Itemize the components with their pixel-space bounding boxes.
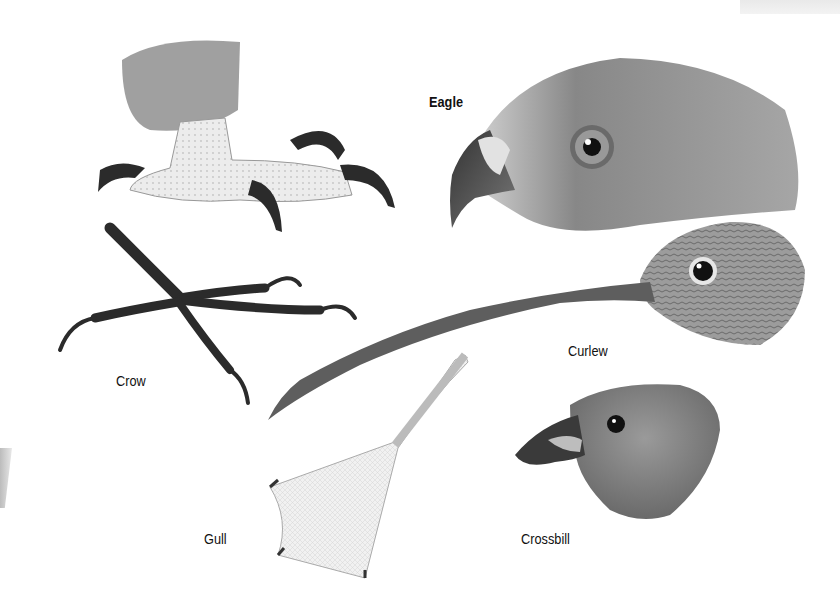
label-gull: Gull [204,530,227,547]
label-curlew: Curlew [568,342,608,359]
label-crow: Crow [116,372,146,389]
label-eagle: Eagle [429,93,463,110]
curlew-head-illustration [268,222,805,420]
crossbill-head-illustration [515,384,720,519]
illustration-plate: Eagle Crow Curlew Gull Crossbill [0,0,840,615]
label-crossbill: Crossbill [521,530,570,547]
eagle-foot-illustration [98,40,395,232]
eagle-head-illustration [450,58,798,231]
